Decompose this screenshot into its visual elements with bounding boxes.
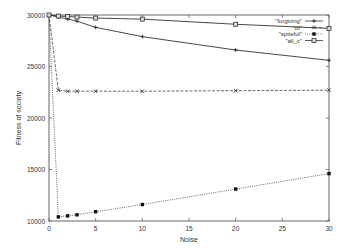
x-tick-label: 25: [279, 225, 287, 232]
line-chart: 0510152025301000015000200002500030000 "f…: [0, 0, 348, 249]
plot-frame: [49, 15, 329, 221]
legend-label: "spiteful": [279, 31, 302, 37]
legend-entry: "spiteful": [279, 31, 323, 37]
axes: 0510152025301000015000200002500030000: [27, 12, 333, 233]
y-tick-label: 15000: [27, 166, 45, 173]
chart-canvas: 0510152025301000015000200002500030000 "f…: [0, 0, 348, 249]
legend-label: "tft": [293, 25, 302, 31]
legend-label: "forgiving": [275, 18, 302, 24]
y-tick-label: 10000: [27, 218, 45, 225]
y-axis-label: Fitness of society: [15, 90, 23, 145]
legend: "forgiving""tft""spiteful""all_c": [275, 18, 323, 44]
y-tick-label: 30000: [27, 12, 45, 19]
series-spiteful: [47, 13, 330, 218]
x-tick-label: 5: [94, 225, 98, 232]
legend-entry: "forgiving": [275, 18, 323, 24]
x-tick-label: 30: [325, 225, 333, 232]
x-tick-label: 10: [139, 225, 147, 232]
x-axis-label: Noise: [180, 236, 198, 243]
legend-label: "all_c": [285, 38, 302, 44]
x-tick-label: 15: [185, 225, 193, 232]
y-tick-label: 20000: [27, 115, 45, 122]
y-tick-label: 25000: [27, 63, 45, 70]
x-tick-label: 20: [232, 225, 240, 232]
series-group: [47, 13, 331, 219]
x-tick-label: 0: [47, 225, 51, 232]
legend-entry: "all_c": [285, 38, 323, 44]
